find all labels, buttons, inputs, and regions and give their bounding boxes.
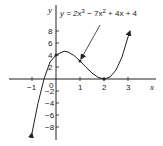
x-axis-label: x xyxy=(149,82,154,92)
y-tick-label: −8 xyxy=(45,123,55,132)
x-tick-label: 2 xyxy=(102,83,107,92)
y-tick-label: −4 xyxy=(45,99,55,108)
y-tick-label: 6 xyxy=(48,39,53,48)
x-tick-label: 3 xyxy=(126,83,131,92)
y-tick-label: 8 xyxy=(48,27,53,36)
x-tick-label: −1 xyxy=(27,83,37,92)
annotation-arrow xyxy=(81,25,100,59)
y-axis-label: y xyxy=(47,5,52,15)
point-marker xyxy=(79,60,82,63)
y-tick-label: −6 xyxy=(45,111,55,120)
y-tick-label: −2 xyxy=(45,87,55,96)
equation-label: y = 2x3 − 7x2 + 4x + 4 xyxy=(59,8,138,18)
point-marker xyxy=(55,54,58,57)
x-tick-label: 1 xyxy=(78,83,83,92)
point-marker xyxy=(103,78,106,81)
cubic-function-plot: y x −1 1 2 3 0 8 6 4 2 −2 −4 −6 −8 y = 2… xyxy=(0,0,163,146)
